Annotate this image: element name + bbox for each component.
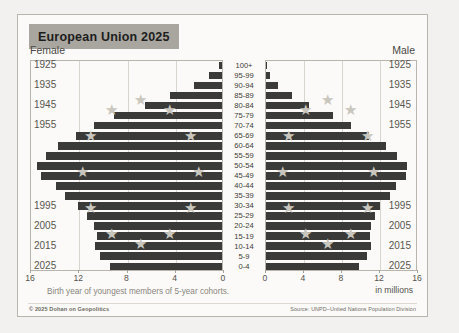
age-label-65-69: 65-69: [223, 131, 265, 140]
table-row: [31, 242, 222, 251]
screenshot-canvas: European Union 2025 Female Male ★★★★★★★★…: [0, 0, 459, 333]
bar-5-9: [266, 252, 367, 260]
bar-60-64: [58, 142, 222, 150]
bar-65-69: [76, 132, 222, 140]
x-tick-4: 4: [295, 273, 311, 283]
bar-30-34: [78, 202, 222, 210]
age-label-50-54: 50-54: [223, 161, 265, 170]
age-label-70-74: 70-74: [223, 121, 265, 130]
x-tick-12: 12: [70, 273, 86, 283]
source-text: Source: UNPD–United Nations Population D…: [290, 306, 416, 312]
table-row: [266, 172, 416, 181]
bar-85-89: [170, 92, 222, 100]
age-cohort-labels: 100+95-9990-9485-8980-8475-7970-7465-696…: [223, 60, 265, 271]
bar-20-24: [266, 222, 371, 230]
birth-year-2005: 2005: [34, 220, 56, 231]
bar-100+: [219, 62, 222, 70]
table-row: [31, 182, 222, 191]
bar-80-84: [266, 102, 309, 110]
bar-40-44: [266, 182, 396, 190]
age-label-100+: 100+: [223, 61, 265, 70]
bar-90-94: [194, 82, 222, 90]
credit-text: © 2025 Dohan on Geopolitics: [29, 306, 109, 312]
male-panel-label: Male: [392, 44, 415, 56]
table-row: [31, 252, 222, 261]
bar-55-59: [266, 152, 397, 160]
birth-year-1995: 1995: [34, 200, 56, 211]
bar-25-29: [266, 212, 375, 220]
bar-75-79: [114, 112, 222, 120]
bar-35-39: [65, 192, 222, 200]
age-label-80-84: 80-84: [223, 101, 265, 110]
age-label-85-89: 85-89: [223, 91, 265, 100]
birth-year-2025: 2025: [389, 260, 411, 271]
age-label-5-9: 5-9: [223, 252, 265, 261]
bar-15-19: [97, 232, 222, 240]
x-tick-0: 0: [215, 273, 231, 283]
table-row: [266, 182, 416, 191]
table-row: [31, 202, 222, 211]
birth-year-1945: 1945: [389, 99, 411, 110]
birth-year-2025: 2025: [34, 260, 56, 271]
bar-85-89: [266, 92, 292, 100]
x-tick-8: 8: [333, 273, 349, 283]
bar-45-49: [266, 172, 406, 180]
bar-20-24: [94, 222, 222, 230]
female-panel-label: Female: [30, 44, 65, 56]
bar-50-54: [266, 162, 407, 170]
bar-50-54: [37, 162, 222, 170]
bar-0-4: [266, 263, 359, 271]
bar-90-94: [266, 82, 278, 90]
x-tick-12: 12: [371, 273, 387, 283]
table-row: [31, 172, 222, 181]
table-row: [31, 91, 222, 100]
x-tick-4: 4: [167, 273, 183, 283]
table-row: [31, 81, 222, 90]
bar-55-59: [46, 152, 222, 160]
bar-25-29: [87, 212, 222, 220]
age-label-45-49: 45-49: [223, 171, 265, 180]
bar-95-99: [266, 72, 270, 80]
bar-65-69: [266, 132, 369, 140]
age-label-35-39: 35-39: [223, 191, 265, 200]
table-row: [31, 121, 222, 130]
bar-30-34: [266, 202, 380, 210]
age-label-10-14: 10-14: [223, 242, 265, 251]
table-row: [31, 222, 222, 231]
page-title: European Union 2025: [38, 30, 170, 44]
bar-15-19: [266, 232, 370, 240]
chart-card: European Union 2025 Female Male ★★★★★★★★…: [17, 14, 428, 317]
bar-45-49: [41, 172, 222, 180]
age-label-95-99: 95-99: [223, 71, 265, 80]
table-row: [31, 232, 222, 241]
age-label-55-59: 55-59: [223, 151, 265, 160]
bar-100+: [266, 62, 267, 70]
x-tick-0: 0: [257, 273, 273, 283]
bar-40-44: [56, 182, 222, 190]
bar-75-79: [266, 112, 333, 120]
birth-year-1935: 1935: [34, 79, 56, 90]
table-row: [31, 151, 222, 160]
birth-year-1935: 1935: [389, 79, 411, 90]
birth-year-2015: 2015: [389, 240, 411, 251]
age-label-0-4: 0-4: [223, 262, 265, 271]
table-row: [266, 161, 416, 170]
table-row: [266, 131, 416, 140]
table-row: [266, 141, 416, 150]
female-bar-rows: [31, 61, 222, 270]
bar-70-74: [94, 122, 222, 130]
birth-year-1955: 1955: [389, 119, 411, 130]
age-label-90-94: 90-94: [223, 81, 265, 90]
bar-95-99: [209, 72, 222, 80]
table-row: [31, 101, 222, 110]
age-label-60-64: 60-64: [223, 141, 265, 150]
bar-0-4: [110, 263, 222, 271]
bar-70-74: [266, 122, 351, 130]
birth-year-1995: 1995: [389, 200, 411, 211]
birth-year-2015: 2015: [34, 240, 56, 251]
age-label-30-34: 30-34: [223, 201, 265, 210]
bar-10-14: [266, 242, 371, 250]
table-row: [31, 111, 222, 120]
x-tick-8: 8: [119, 273, 135, 283]
birth-year-1925: 1925: [34, 59, 56, 70]
